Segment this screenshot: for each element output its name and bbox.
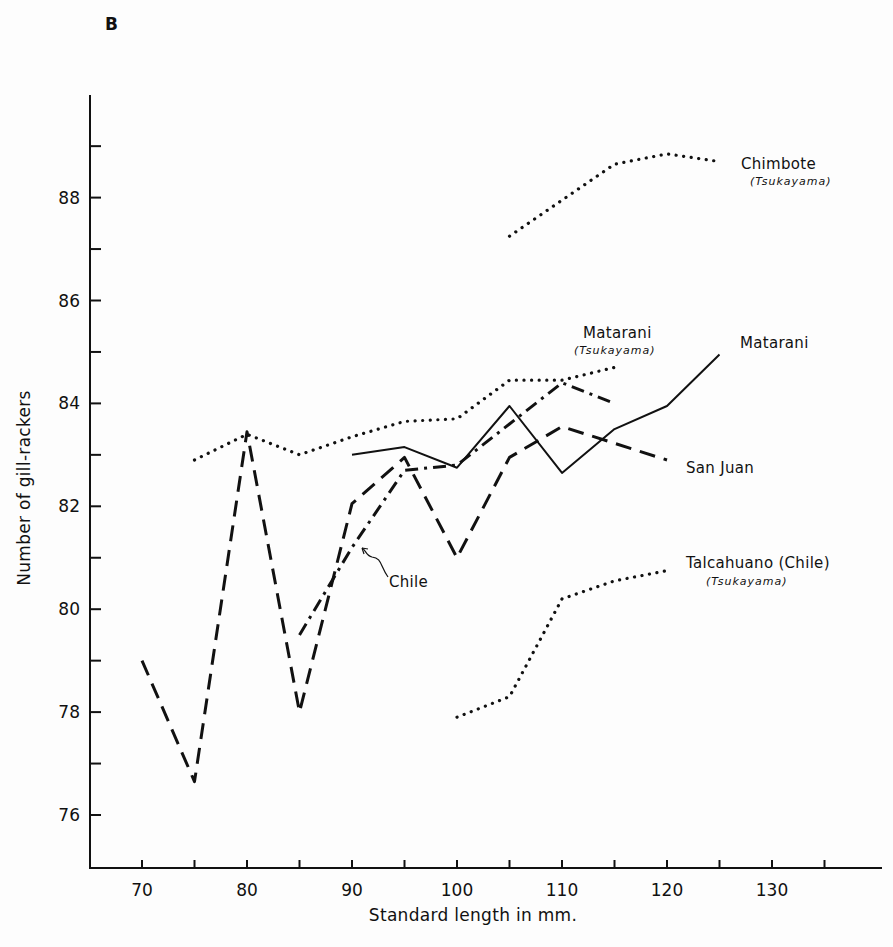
x-tick-label: 130 (756, 880, 788, 900)
y-tick-label: 76 (58, 805, 80, 825)
chile-pointer-arrow (362, 548, 388, 577)
series-talcahuano-chile-tsukayama (457, 571, 667, 718)
series-chile (300, 383, 615, 635)
y-tick-label: 80 (58, 599, 80, 619)
label-chimbote-sub: (Tsukayama) (750, 175, 832, 188)
y-tick-label: 84 (58, 393, 80, 413)
y-tick-label: 82 (58, 496, 80, 516)
series-chimbote-tsukayama (510, 154, 720, 236)
y-tick-label: 86 (58, 291, 80, 311)
label-matarani: Matarani (740, 334, 809, 352)
label-talcahuano: Talcahuano (Chile) (686, 554, 830, 572)
data-series (142, 154, 720, 782)
x-tick-label: 100 (441, 880, 473, 900)
axis-ticks (90, 146, 825, 868)
label-chimbote: Chimbote (741, 155, 816, 173)
x-tick-label: 110 (546, 880, 578, 900)
series-matarani (352, 355, 720, 473)
panel-letter: B (105, 14, 118, 34)
label-chile: Chile (389, 573, 428, 591)
x-tick-label: 90 (341, 880, 363, 900)
y-tick-label: 88 (58, 188, 80, 208)
y-axis-label: Number of gill-rackers (14, 390, 34, 585)
y-tick-label: 78 (58, 702, 80, 722)
axis-lines (90, 95, 882, 868)
x-tick-label: 120 (651, 880, 683, 900)
label-san-juan: San Juan (686, 459, 754, 477)
axes (90, 95, 882, 868)
x-tick-label: 80 (236, 880, 258, 900)
label-matarani-tsukayama: Matarani (583, 324, 652, 342)
label-talcahuano-sub: (Tsukayama) (706, 575, 788, 588)
x-axis-label: Standard length in mm. (369, 905, 577, 925)
label-matarani-tsukayama-sub: (Tsukayama) (574, 344, 656, 357)
x-tick-label: 70 (131, 880, 153, 900)
series-san-juan (142, 427, 667, 782)
line-chart: 70809010011012013076788082848688 (0, 0, 893, 947)
axis-tick-labels: 70809010011012013076788082848688 (58, 188, 788, 900)
